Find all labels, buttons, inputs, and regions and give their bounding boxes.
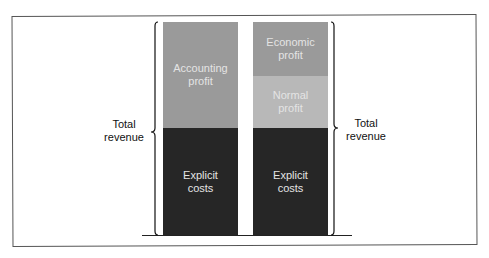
left-brace-icon [151,22,158,235]
braces [0,0,489,258]
left-total-revenue-label: Total revenue [98,118,150,144]
right-total-revenue-label: Total revenue [340,117,392,143]
right-brace-icon [331,22,338,235]
